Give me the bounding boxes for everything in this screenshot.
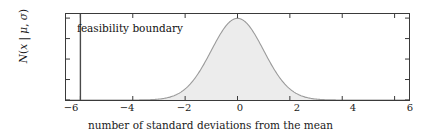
- x-tick-label--6: −6: [51, 103, 91, 113]
- feasibility-boundary-label: feasibility boundary: [77, 22, 183, 34]
- x-tick-label--4: −4: [107, 103, 147, 113]
- x-axis-label: number of standard deviations from the m…: [0, 119, 421, 131]
- x-tick-label--2: −2: [164, 103, 204, 113]
- x-tick-label-2: 2: [277, 103, 317, 113]
- x-tick-label-6: 6: [390, 103, 421, 113]
- x-tick-label-4: 4: [333, 103, 373, 113]
- normal-distribution-figure: N(x | μ, σ) 0.4 0.3 0.2 0.1 0 feasibilit…: [0, 0, 421, 136]
- y-axis-label: N(x | μ, σ): [17, 0, 29, 96]
- x-tick-label-0: 0: [220, 103, 260, 113]
